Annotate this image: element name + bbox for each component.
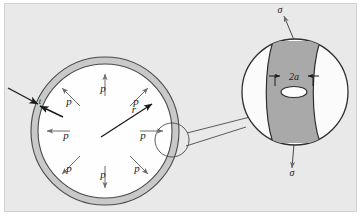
pressure-label-lower-left: p (65, 162, 72, 174)
pressure-label-top: p (99, 82, 106, 94)
stress-arrow-top (284, 16, 294, 40)
figure-root: p p p p p p p p r t 2a σ σ (0, 0, 362, 218)
pressure-vessel-diagram: p p p p p p p p r t 2a σ σ (0, 0, 362, 218)
pressure-label-bottom: p (99, 168, 106, 180)
crack-width-label: 2a (289, 71, 299, 82)
detail-leader-lines (186, 117, 250, 146)
pressure-label-upper-left: p (65, 95, 72, 107)
stress-label-top: σ (278, 4, 284, 15)
pressure-label-lower-right: p (133, 162, 140, 174)
radius-label: r (132, 103, 137, 115)
stress-label-bottom: σ (290, 167, 296, 178)
pressure-label-right: p (139, 129, 146, 141)
crack-hole (281, 87, 307, 98)
pressure-label-left: p (62, 129, 69, 141)
stress-arrow-bottom (292, 144, 294, 168)
detail-view (242, 16, 348, 168)
